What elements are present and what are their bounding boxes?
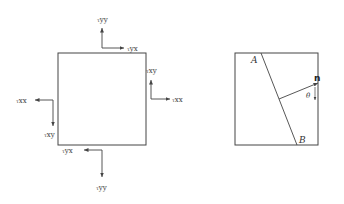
point-a-label: A xyxy=(250,55,258,65)
point-b-label: B xyxy=(298,135,306,145)
tyy-top-label: τyy xyxy=(97,16,108,24)
txy-left-label: τxy xyxy=(44,131,55,139)
txx-right-label: τxx xyxy=(172,96,183,104)
txx-left-label: τxx xyxy=(16,97,27,105)
tyx-top-label: τyx xyxy=(127,45,138,53)
normal-vector xyxy=(279,83,318,99)
stress-diagram: τyy τyx τxy τxx τxx τxy τyx τyy A B n θ xyxy=(0,0,344,204)
tyy-bottom-label: τyy xyxy=(96,184,107,192)
normal-label: n xyxy=(314,73,320,83)
theta-label: θ xyxy=(306,92,311,100)
tyx-bottom-label: τyx xyxy=(62,147,73,155)
stress-element: τyy τyx τxy τxx τxx τxy τyx τyy xyxy=(16,16,183,192)
txy-right-label: τxy xyxy=(146,67,157,75)
cut-plane-element: A B n θ xyxy=(235,53,320,145)
